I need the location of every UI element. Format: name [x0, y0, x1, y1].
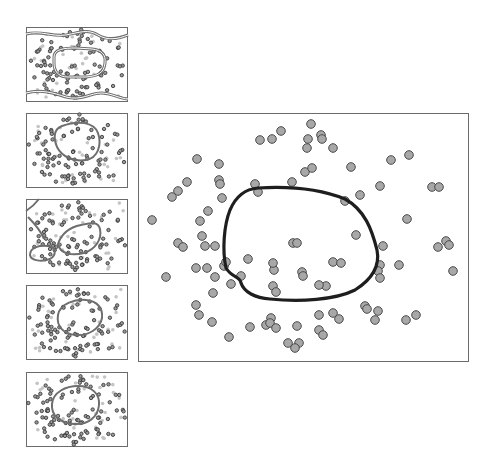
- data-point: [216, 180, 225, 189]
- data-point: [37, 131, 40, 134]
- data-point: [304, 135, 313, 144]
- data-point: [104, 158, 107, 161]
- data-point: [91, 146, 94, 149]
- data-point: [48, 212, 51, 215]
- light-data-point: [119, 416, 123, 420]
- light-data-point: [115, 157, 119, 161]
- data-point: [107, 175, 110, 178]
- data-point: [47, 56, 50, 59]
- data-point: [86, 431, 89, 434]
- data-point: [96, 347, 99, 350]
- data-point: [269, 259, 278, 268]
- data-point: [86, 292, 89, 295]
- data-point: [60, 379, 63, 382]
- data-point: [43, 430, 46, 433]
- data-point: [60, 396, 63, 399]
- data-point: [66, 177, 69, 180]
- data-point: [52, 164, 55, 167]
- data-point: [40, 342, 43, 345]
- data-point: [116, 133, 119, 136]
- data-point: [449, 267, 458, 276]
- data-point: [71, 216, 74, 219]
- data-point: [85, 344, 88, 347]
- data-point: [198, 232, 207, 241]
- data-point: [87, 137, 90, 140]
- data-point: [123, 330, 126, 333]
- data-point: [65, 293, 68, 296]
- data-point: [315, 311, 324, 320]
- data-point: [33, 76, 36, 79]
- data-point: [67, 165, 70, 168]
- data-point: [51, 311, 54, 314]
- data-point: [74, 261, 77, 264]
- light-data-point: [112, 138, 116, 142]
- plot-overlay: [0, 0, 492, 470]
- data-point: [80, 212, 83, 215]
- data-point: [48, 346, 51, 349]
- data-point: [70, 390, 73, 393]
- data-point: [96, 428, 99, 431]
- data-point: [100, 218, 103, 221]
- data-point: [62, 134, 65, 137]
- data-point: [329, 144, 338, 153]
- light-data-point: [72, 426, 76, 430]
- data-point: [379, 242, 388, 251]
- data-point: [67, 88, 70, 91]
- data-point: [307, 120, 316, 129]
- data-point: [308, 164, 317, 173]
- data-point: [81, 162, 84, 165]
- data-point: [43, 173, 46, 176]
- data-point: [246, 323, 255, 332]
- data-point: [434, 243, 443, 252]
- data-point: [225, 333, 234, 342]
- light-data-point: [106, 165, 110, 169]
- light-data-point: [66, 235, 70, 239]
- data-point: [106, 298, 109, 301]
- data-point: [61, 290, 64, 293]
- data-point: [35, 421, 38, 424]
- light-data-point: [107, 265, 111, 269]
- data-point: [108, 401, 111, 404]
- data-point: [215, 160, 224, 169]
- data-point: [88, 214, 91, 217]
- data-point: [43, 83, 46, 86]
- data-point: [99, 421, 102, 424]
- light-data-point: [103, 375, 107, 379]
- data-point: [376, 274, 385, 283]
- data-point: [403, 215, 412, 224]
- data-point: [59, 349, 62, 352]
- data-point: [50, 333, 53, 336]
- light-data-point: [52, 297, 56, 301]
- data-point: [50, 132, 53, 135]
- data-point: [42, 345, 45, 348]
- data-point: [435, 183, 444, 192]
- data-point: [44, 416, 47, 419]
- data-point: [62, 118, 65, 121]
- data-point: [81, 206, 84, 209]
- light-data-point: [118, 346, 122, 350]
- data-point: [120, 322, 123, 325]
- data-point: [41, 39, 44, 42]
- data-point: [337, 259, 346, 268]
- data-point: [73, 64, 76, 67]
- data-point: [80, 34, 83, 37]
- data-point: [86, 327, 89, 330]
- light-data-point: [119, 156, 123, 160]
- light-data-point: [95, 332, 99, 336]
- data-point: [288, 178, 297, 187]
- data-point: [44, 148, 47, 151]
- data-point: [106, 330, 109, 333]
- data-point: [28, 316, 31, 319]
- data-point: [49, 339, 52, 342]
- data-point: [51, 303, 54, 306]
- data-point: [72, 321, 75, 324]
- light-data-point: [64, 211, 68, 215]
- data-point: [51, 222, 54, 225]
- light-data-point: [64, 340, 68, 344]
- data-point: [104, 71, 107, 74]
- data-point: [66, 336, 69, 339]
- data-point: [35, 135, 38, 138]
- data-point: [192, 264, 201, 273]
- data-point: [111, 433, 114, 436]
- data-point: [78, 172, 81, 175]
